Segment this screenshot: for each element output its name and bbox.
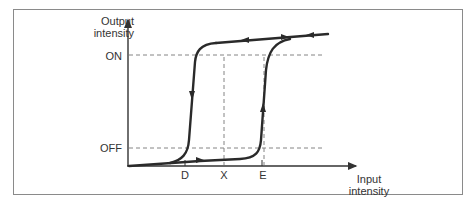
tick-label-d: D <box>178 169 192 181</box>
y-axis-label-line2: intensity <box>80 27 134 39</box>
y-axis-label-line1: Output <box>80 15 134 27</box>
tick-label-x: X <box>217 169 231 181</box>
direction-arrows <box>189 32 314 163</box>
x-axis-label: Input intensity <box>344 173 394 197</box>
off-level-label: OFF <box>96 142 122 154</box>
hysteresis-curves <box>129 34 328 166</box>
tick-label-e: E <box>256 169 270 181</box>
y-axis-label: Output intensity <box>80 15 134 39</box>
x-axis-label-line1: Input <box>344 173 394 185</box>
x-axis-label-line2: intensity <box>344 185 394 197</box>
hysteresis-plot <box>0 0 472 209</box>
dashed-guides <box>129 55 322 165</box>
on-level-label: ON <box>100 50 122 62</box>
